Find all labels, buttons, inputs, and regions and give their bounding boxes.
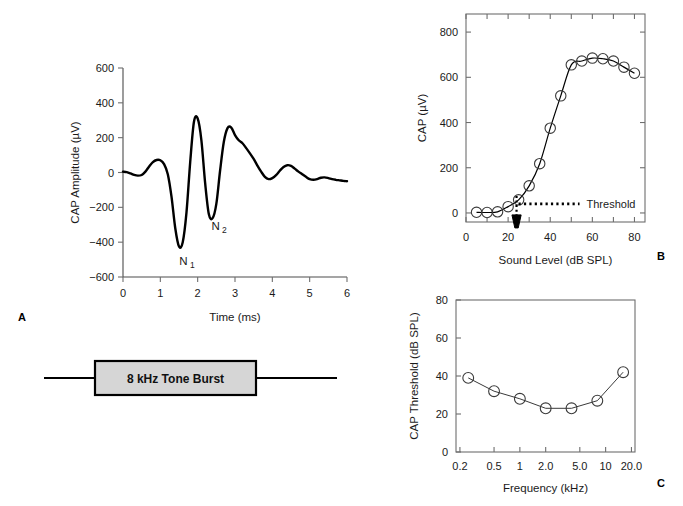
panel-a-y-tick-label: 600: [96, 62, 114, 74]
panel-a-svg: −600−400−20002004006000123456Time (ms)CA…: [0, 0, 400, 340]
panel-a-y-tick-label: −600: [89, 271, 114, 283]
panel-b-x-tick-label: 0: [463, 231, 469, 243]
panel-c-y-axis-label: CAP Threshold (dB SPL): [408, 312, 420, 440]
panel-c-x-tick-label: 2.0: [538, 460, 553, 472]
panel-b-y-tick-label: 0: [452, 207, 458, 219]
panel-a-plot-area: −600−400−20002004006000123456Time (ms)CA…: [69, 62, 350, 323]
panel-b-x-tick-label: 60: [586, 231, 598, 243]
panel-a-y-axis-label: CAP Amplitude (µV): [69, 121, 81, 223]
panel-a-annotation-n2-subscript: 2: [222, 225, 227, 235]
panel-a-x-tick-label: 4: [269, 287, 275, 299]
panel-letter-a: A: [18, 311, 26, 323]
panel-a-annotation-n1: N: [179, 255, 187, 267]
panel-b-plot-area: 0200400600800020406080Sound Level (dB SP…: [416, 14, 645, 266]
panel-c-x-tick-label: 20.0: [621, 460, 642, 472]
panel-a-annotation-n2: N: [211, 220, 219, 232]
panel-c-plot-area: 0204060800.20.512.05.01020.0Frequency (k…: [408, 294, 642, 494]
panel-c-y-tick-label: 80: [436, 294, 448, 306]
panel-a-annotation-n1-subscript: 1: [190, 260, 195, 270]
panel-c-x-tick-label: 10: [600, 460, 612, 472]
panel-b-x-tick-label: 20: [502, 231, 514, 243]
panel-a-x-axis-label: Time (ms): [209, 311, 260, 323]
panel-b-x-tick-label: 40: [544, 231, 556, 243]
panel-c-y-tick-label: 40: [436, 370, 448, 382]
panel-letter-b: B: [657, 250, 665, 262]
panel-a-cap-waveform: −600−400−20002004006000123456Time (ms)CA…: [0, 0, 400, 340]
panel-c-y-tick-label: 60: [436, 332, 448, 344]
panel-c-x-tick-label: 1: [517, 460, 523, 472]
panel-b-x-axis-label: Sound Level (dB SPL): [499, 254, 613, 266]
panel-c-frame: [456, 300, 635, 452]
panel-c-data-point: [463, 373, 474, 384]
panel-c-y-tick-label: 20: [436, 408, 448, 420]
panel-c-y-tick-label: 0: [442, 446, 448, 458]
panel-b-fit-curve: [477, 58, 635, 213]
panel-a-x-tick-label: 0: [120, 287, 126, 299]
panel-a-x-tick-label: 5: [307, 287, 313, 299]
panel-c-threshold-curve: 0204060800.20.512.05.01020.0Frequency (k…: [400, 280, 683, 506]
panel-b-y-tick-label: 800: [440, 26, 458, 38]
panel-c-x-axis-label: Frequency (kHz): [503, 482, 588, 494]
panel-a-y-tick-label: −200: [89, 201, 114, 213]
panel-b-data-point: [629, 68, 639, 78]
panel-a-x-tick-label: 3: [232, 287, 238, 299]
panel-b-y-tick-label: 600: [440, 71, 458, 83]
panel-a-x-tick-label: 1: [157, 287, 163, 299]
panel-b-io-function: 0200400600800020406080Sound Level (dB SP…: [400, 0, 683, 280]
tone-burst-label: 8 kHz Tone Burst: [127, 372, 224, 386]
panel-a-y-tick-label: 200: [96, 132, 114, 144]
panel-c-x-tick-label: 5.0: [572, 460, 587, 472]
panel-a-axes: [123, 68, 347, 277]
panel-b-x-tick-label: 80: [628, 231, 640, 243]
panel-b-frame: [466, 14, 645, 222]
panel-a-y-tick-label: 400: [96, 97, 114, 109]
panel-letter-b-wrap: B: [645, 243, 683, 271]
panel-b-svg: 0200400600800020406080Sound Level (dB SP…: [400, 0, 683, 280]
panel-letter-a-wrap: A: [0, 300, 40, 330]
tone-burst-svg: 8 kHz Tone Burst: [0, 340, 400, 420]
panel-b-y-tick-label: 400: [440, 117, 458, 129]
panel-a-y-tick-label: −400: [89, 236, 114, 248]
panel-b-y-tick-label: 200: [440, 162, 458, 174]
panel-b-y-axis-label: CAP (µV): [416, 94, 428, 143]
panel-b-threshold-label: Threshold: [587, 198, 636, 210]
panel-c-x-tick-label: 0.5: [486, 460, 501, 472]
panel-a-x-tick-label: 6: [344, 287, 350, 299]
panel-a-x-tick-label: 2: [195, 287, 201, 299]
panel-letter-c: C: [657, 477, 665, 489]
panel-c-x-tick-label: 0.2: [452, 460, 467, 472]
panel-a-waveform-trace: [123, 116, 347, 247]
panel-c-svg: 0204060800.20.512.05.01020.0Frequency (k…: [400, 280, 683, 506]
panel-a-y-tick-label: 0: [108, 167, 114, 179]
panel-letter-c-wrap: C: [645, 470, 683, 498]
panel-b-threshold-arrow-icon: [512, 215, 521, 228]
stimulus-tone-burst: 8 kHz Tone Burst: [0, 340, 400, 420]
